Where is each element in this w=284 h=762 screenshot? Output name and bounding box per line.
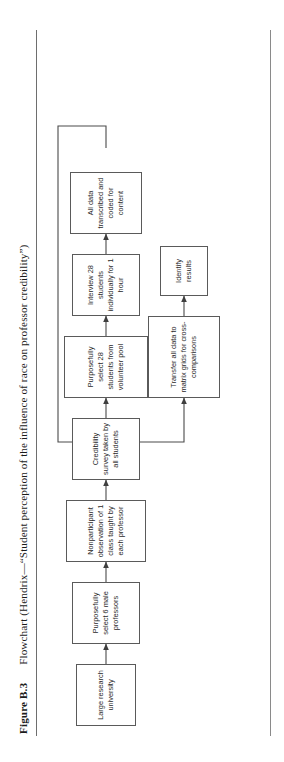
flow-node-8[interactable]: Transfer all data to matrix grids for cr… <box>148 316 220 398</box>
flow-node-7-label: All data transcribed and coded for conte… <box>86 176 125 230</box>
flow-node-3-label: Nonparticipant observation of 1 class ta… <box>86 504 125 558</box>
flow-node-2[interactable]: Purposefully select 6 male professors <box>72 582 140 644</box>
rotated-page-wrapper: Figure B.3Flowchart (Hendrix—“Student pe… <box>0 0 284 762</box>
figure-caption: Figure B.3Flowchart (Hendrix—“Student pe… <box>16 34 30 734</box>
flow-node-3[interactable]: Nonparticipant observation of 1 class ta… <box>66 500 146 562</box>
page-rule-bottom <box>270 30 271 736</box>
flow-node-9[interactable]: Identify results <box>160 246 208 296</box>
flow-node-2-label: Purposefully select 6 male professors <box>91 586 120 640</box>
flow-node-4-label: Credibility survey taken by all students <box>91 422 120 476</box>
flow-node-5[interactable]: Purposefully select 28 students from vol… <box>64 336 148 398</box>
flow-node-7[interactable]: All data transcribed and coded for conte… <box>70 172 142 234</box>
flow-node-6-label: Interview 28 students individually for 1… <box>86 258 125 312</box>
figure-caption-text: Flowchart (Hendrix—“Student perception o… <box>17 245 29 665</box>
flow-node-6[interactable]: Interview 28 students individually for 1… <box>72 254 140 316</box>
book-figure-page: Figure B.3Flowchart (Hendrix—“Student pe… <box>0 0 284 762</box>
flow-node-8-label: Transfer all data to matrix grids for cr… <box>169 320 198 394</box>
flow-node-5-label: Purposefully select 28 students from vol… <box>86 340 125 394</box>
flow-node-4[interactable]: Credibility survey taken by all students <box>72 418 140 480</box>
flow-node-1[interactable]: Large research university <box>76 664 136 726</box>
figure-number: Figure B.3 <box>17 683 29 734</box>
flow-node-9-label: Identify results <box>174 250 194 292</box>
flowchart: Large research university Purposefully s… <box>36 0 270 762</box>
flow-node-1-label: Large research university <box>96 668 116 722</box>
